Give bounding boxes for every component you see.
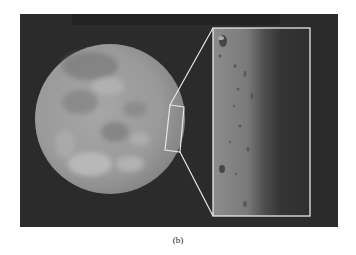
top-dark-band xyxy=(72,14,280,25)
moon-figure-svg xyxy=(20,14,338,227)
moon-disk xyxy=(35,44,185,194)
moon-figure xyxy=(20,14,338,227)
inset-panel xyxy=(213,28,310,216)
connector-line-top xyxy=(170,28,213,105)
connector-line-bottom xyxy=(180,152,213,216)
figure-caption: (b) xyxy=(0,235,356,245)
